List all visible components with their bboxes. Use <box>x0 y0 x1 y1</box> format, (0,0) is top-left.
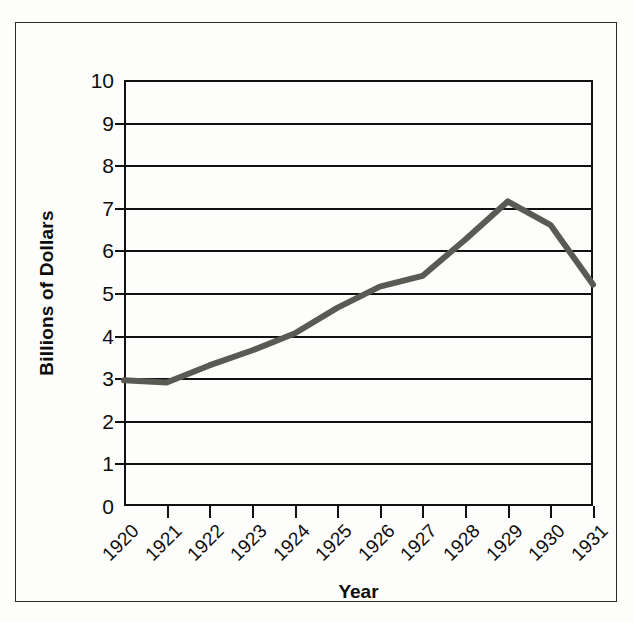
y-axis-tick-label: 5 <box>74 283 114 304</box>
y-axis-title-text: Billions of Dollars <box>36 210 58 375</box>
x-axis-tick-mark <box>465 506 467 518</box>
x-axis-tick-label: 1928 <box>434 520 485 571</box>
x-axis-tick-label: 1931 <box>562 520 613 571</box>
x-axis-tick-mark <box>550 506 552 518</box>
x-axis-tick-label: 1927 <box>391 520 442 571</box>
y-axis-tick-label: 10 <box>74 70 114 91</box>
y-axis-tick-mark <box>115 123 124 125</box>
y-axis-tick-label: 4 <box>74 325 114 346</box>
y-axis-title: Billions of Dollars <box>32 80 62 506</box>
figure-border: Billions of Dollars 109876543210 1920192… <box>15 22 617 602</box>
x-axis-tick-mark <box>422 506 424 518</box>
x-axis-tick-label: 1921 <box>135 520 186 571</box>
x-axis-tick-mark <box>295 506 297 518</box>
y-axis-tick-mark <box>115 250 124 252</box>
x-axis-tick-label: 1930 <box>519 520 570 571</box>
y-axis-tick-mark <box>115 165 124 167</box>
x-axis-tick-mark <box>252 506 254 518</box>
x-axis-tick-mark <box>508 506 510 518</box>
y-axis-tick-label: 1 <box>74 453 114 474</box>
y-axis-tick-mark <box>115 336 124 338</box>
y-axis-tick-label: 9 <box>74 112 114 133</box>
y-axis-tick-label: 6 <box>74 240 114 261</box>
x-axis-tick-label: 1924 <box>263 520 314 571</box>
data-line <box>124 201 593 382</box>
x-axis-tick-label: 1923 <box>221 520 272 571</box>
y-axis-tick-label: 7 <box>74 197 114 218</box>
x-axis-tick-label: 1922 <box>178 520 229 571</box>
y-axis-tick-label: 2 <box>74 410 114 431</box>
y-axis-tick-mark <box>115 463 124 465</box>
x-axis-tick-mark <box>209 506 211 518</box>
chart-page: Billions of Dollars 109876543210 1920192… <box>0 0 634 622</box>
plot-area <box>124 80 593 506</box>
y-axis-tick-label: 3 <box>74 368 114 389</box>
y-axis-tick-label: 8 <box>74 155 114 176</box>
x-axis-tick-label: 1926 <box>348 520 399 571</box>
y-axis-tick-mark <box>115 293 124 295</box>
x-axis-tick-mark <box>167 506 169 518</box>
x-axis-tick-mark <box>380 506 382 518</box>
x-axis-tick-label: 1929 <box>476 520 527 571</box>
x-axis-tick-mark <box>337 506 339 518</box>
x-axis-tick-mark <box>593 506 595 518</box>
data-line-series <box>124 80 593 506</box>
y-axis-tick-mark <box>115 421 124 423</box>
x-axis-tick-label: 1920 <box>93 520 144 571</box>
x-axis-tick-marks <box>124 506 593 518</box>
y-axis-tick-mark <box>115 208 124 210</box>
x-axis-title: Year <box>124 581 593 603</box>
y-axis-tick-labels: 109876543210 <box>70 80 114 506</box>
x-axis-tick-labels: 1920192119221923192419251926192719281929… <box>124 520 593 580</box>
y-axis-tick-label: 0 <box>74 496 114 517</box>
x-axis-tick-label: 1925 <box>306 520 357 571</box>
